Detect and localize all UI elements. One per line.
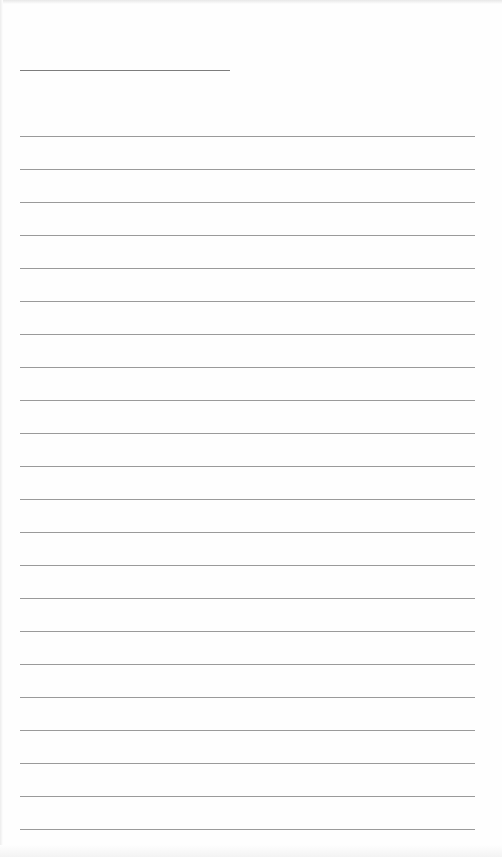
header-write-line: [20, 70, 230, 71]
writing-line: [20, 697, 475, 698]
lined-page: [0, 0, 502, 857]
writing-line: [20, 565, 475, 566]
writing-line: [20, 499, 475, 500]
writing-line: [20, 301, 475, 302]
writing-line: [20, 169, 475, 170]
writing-line: [20, 796, 475, 797]
writing-line: [20, 136, 475, 137]
writing-line: [20, 400, 475, 401]
writing-line: [20, 829, 475, 830]
writing-line: [20, 466, 475, 467]
writing-line: [20, 664, 475, 665]
writing-line: [20, 268, 475, 269]
page-left-edge: [0, 0, 3, 857]
writing-line: [20, 730, 475, 731]
writing-line: [20, 631, 475, 632]
page-bottom-edge: [0, 845, 502, 857]
writing-line: [20, 763, 475, 764]
writing-line: [20, 202, 475, 203]
writing-line: [20, 367, 475, 368]
writing-line: [20, 235, 475, 236]
writing-line: [20, 598, 475, 599]
page-top-edge: [0, 0, 502, 4]
writing-line: [20, 334, 475, 335]
writing-line: [20, 532, 475, 533]
writing-line: [20, 433, 475, 434]
